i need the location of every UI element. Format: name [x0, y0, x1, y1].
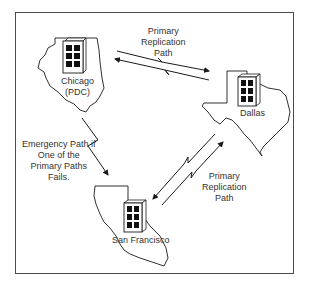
label-line: Primary — [202, 171, 247, 182]
label-line: Emergency Path if — [22, 139, 96, 150]
dallas-name: Dallas — [240, 108, 265, 119]
chicago-name: Chicago — [61, 76, 94, 87]
san-francisco-name: San Francisco — [112, 235, 170, 246]
chicago-label: Chicago (PDC) — [61, 76, 94, 98]
label-line: Path — [141, 48, 186, 59]
label-line: Replication — [202, 182, 247, 193]
label-line: Replication — [141, 37, 186, 48]
dallas-label: Dallas — [240, 108, 265, 119]
primary-path-label-bottom: Primary Replication Path — [202, 171, 247, 204]
chicago-role: (PDC) — [61, 87, 94, 98]
san-francisco-label: San Francisco — [112, 235, 170, 246]
san-francisco-server-icon — [124, 200, 146, 232]
label-line: Fails. — [22, 172, 96, 183]
label-line: One of the — [22, 150, 96, 161]
label-line: Primary — [141, 26, 186, 37]
label-line: Primary Paths — [22, 161, 96, 172]
chicago-server-icon — [63, 38, 86, 73]
emergency-path-label: Emergency Path if One of the Primary Pat… — [22, 139, 96, 183]
label-line: Path — [202, 193, 247, 204]
primary-path-label-top: Primary Replication Path — [141, 26, 186, 59]
dallas-server-icon — [238, 74, 260, 106]
